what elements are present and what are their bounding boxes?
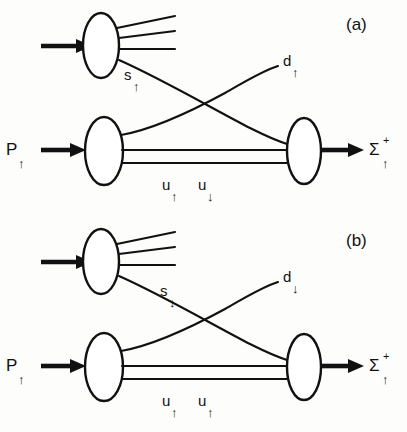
upper-blob-a	[83, 13, 119, 78]
panel-a: (a) P ↑ s ↑ d ↑ u ↑ u ↓ Σ + ↑	[0, 0, 407, 216]
sigma-charge-b: +	[383, 350, 389, 362]
sigma-out-arrow-b	[320, 359, 364, 373]
proton-beam-arrow-b	[41, 359, 86, 373]
spectator-quark-lines-b	[122, 366, 290, 379]
u-quark-2-spin-arrow-b: ↑	[207, 405, 214, 420]
sigma-spin-arrow-a: ↑	[382, 156, 389, 171]
proton-blob-b	[85, 333, 123, 401]
proton-beam-arrow-a	[41, 143, 86, 157]
s-quark-label-b: s	[160, 282, 168, 299]
proton-spin-arrow-b: ↑	[18, 372, 25, 387]
panel-label-a: (a)	[346, 15, 367, 34]
sigma-spin-arrow-b: ↑	[382, 372, 389, 387]
sigma-blob-b	[287, 334, 321, 400]
s-quark-spin-arrow-a: ↑	[133, 79, 140, 94]
u-quark-1-spin-arrow-b: ↑	[171, 405, 178, 420]
sigma-blob-a	[287, 118, 321, 184]
spectator-quark-lines-a	[122, 150, 290, 163]
upper-blob-outgoing-lines-a	[117, 16, 175, 49]
proton-label-a: P	[6, 140, 17, 159]
s-quark-spin-arrow-b: ↓	[169, 295, 176, 310]
quark-line-figure: (a) P ↑ s ↑ d ↑ u ↑ u ↓ Σ + ↑	[0, 0, 407, 432]
panel-label-b: (b)	[346, 231, 367, 250]
d-quark-spin-arrow-a: ↑	[292, 65, 299, 80]
d-quark-spin-arrow-b: ↓	[292, 281, 299, 296]
proton-label-b: P	[6, 356, 17, 375]
u-quark-1-spin-arrow-a: ↑	[171, 189, 178, 204]
sigma-label-a: Σ	[369, 140, 380, 159]
s-quark-line-a	[119, 60, 290, 145]
u-quark-1-label-a: u	[162, 176, 170, 193]
s-quark-label-a: s	[124, 66, 132, 83]
sigma-out-arrow-a	[320, 143, 364, 157]
upper-blob-outgoing-lines-b	[117, 232, 175, 265]
d-quark-label-b: d	[283, 268, 291, 285]
u-quark-2-label-a: u	[198, 176, 206, 193]
u-quark-2-spin-arrow-a: ↓	[207, 189, 214, 204]
u-quark-2-label-b: u	[198, 392, 206, 409]
sigma-label-b: Σ	[369, 356, 380, 375]
panel-b-content: (b) P ↑ s ↓ d ↓ u ↑ u ↑ Σ + ↑	[0, 216, 407, 432]
u-quark-1-label-b: u	[162, 392, 170, 409]
upper-blob-b	[83, 229, 119, 294]
sigma-charge-a: +	[383, 134, 389, 146]
proton-blob-a	[85, 117, 123, 185]
proton-spin-arrow-a: ↑	[18, 156, 25, 171]
s-quark-line-b	[119, 276, 290, 361]
d-quark-label-a: d	[283, 52, 291, 69]
